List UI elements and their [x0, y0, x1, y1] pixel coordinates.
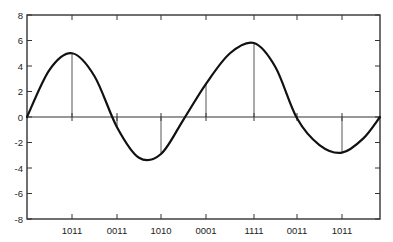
x-tick-label: 1111: [244, 225, 263, 236]
x-tick-label: 1010: [150, 225, 171, 236]
y-tick-label: 2: [18, 86, 23, 97]
y-tick-label: -2: [15, 137, 23, 148]
signal-curve: [27, 43, 380, 161]
x-tick-label: 1011: [332, 225, 352, 236]
sample-stems: [72, 43, 342, 154]
x-tick-label: 0011: [107, 225, 127, 236]
x-axis-labels: 1011001110100001111100111011: [62, 225, 352, 236]
x-tick-label: 0011: [287, 225, 307, 236]
y-tick-label: -4: [15, 163, 23, 174]
plot-area: [27, 15, 380, 219]
y-tick-label: -8: [15, 214, 23, 225]
y-tick-label: -6: [15, 188, 23, 199]
y-tick-label: 6: [18, 35, 23, 46]
y-tick-label: 4: [18, 61, 23, 72]
y-tick-label: 0: [18, 112, 23, 123]
chart: -8-6-4-202468 10110011101000011111001110…: [0, 0, 393, 242]
y-axis-labels: -8-6-4-202468: [15, 10, 23, 225]
x-tick-label: 0001: [195, 225, 216, 236]
y-tick-label: 8: [18, 10, 23, 21]
x-tick-label: 1011: [62, 225, 82, 236]
